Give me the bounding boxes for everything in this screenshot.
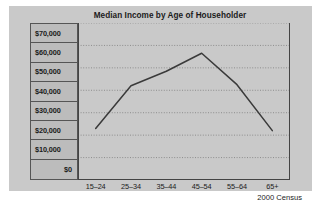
y-axis-tick: $0 <box>31 160 77 179</box>
x-axis-tick-label: 35–44 <box>149 182 184 194</box>
y-axis-label-column: $70,000 $60,000 $50,000 $40,000 $30,000 … <box>30 23 78 180</box>
y-axis-tick: $10,000 <box>31 140 77 159</box>
y-axis-tick-label: $60,000 <box>35 48 61 57</box>
y-axis-tick-label: $10,000 <box>35 145 61 154</box>
y-axis-tick-label: $50,000 <box>35 67 61 76</box>
y-axis-tick: $60,000 <box>31 43 77 62</box>
source-annotation: 2000 Census <box>257 193 302 202</box>
y-axis-tick: $20,000 <box>31 121 77 140</box>
y-axis-tick: $70,000 <box>31 24 77 43</box>
y-axis-tick-label: $20,000 <box>35 126 61 135</box>
gridlines-group <box>78 23 290 180</box>
x-axis-tick-label: 45–54 <box>184 182 219 194</box>
y-axis-tick: $50,000 <box>31 63 77 82</box>
x-axis-tick-label: 15–24 <box>78 182 113 194</box>
cropped-caption-artifact <box>8 199 98 207</box>
y-axis-tick-label: $70,000 <box>35 29 61 38</box>
chart-canvas <box>78 23 290 180</box>
plot-area <box>78 23 290 180</box>
y-axis-tick: $30,000 <box>31 102 77 121</box>
y-axis-tick: $40,000 <box>31 82 77 101</box>
x-axis-tick-label: 55–64 <box>219 182 254 194</box>
x-axis-tick-label: 25–34 <box>113 182 148 194</box>
y-axis-tick-label: $40,000 <box>35 87 61 96</box>
chart-title: Median Income by Age of Householder <box>40 11 300 20</box>
y-axis-tick-label: $30,000 <box>35 106 61 115</box>
axis-lines-group <box>78 23 290 180</box>
income-line-series <box>96 53 273 130</box>
chart-figure: Median Income by Age of Householder $70,… <box>0 0 321 209</box>
y-axis-tick-label: $0 <box>64 165 72 174</box>
